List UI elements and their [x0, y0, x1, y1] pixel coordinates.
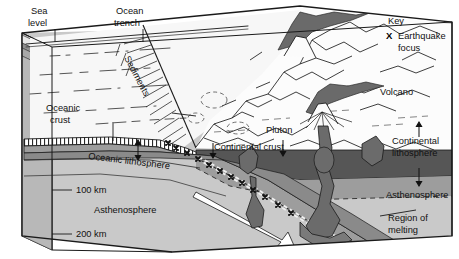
depth-tick-label-200km: 200 km [76, 229, 107, 239]
label-region-of-melting-line1: Region of [388, 213, 428, 223]
key-entry-label-line2: focus [398, 43, 421, 53]
label-asthenosphere-right: Asthenosphere [386, 190, 449, 200]
label-pluton: Pluton [266, 125, 292, 135]
label-asthenosphere-left: Asthenosphere [94, 205, 157, 215]
label-oceanic-crust-line2: crust [50, 115, 71, 125]
label-ocean-trench-line2: trench [114, 18, 140, 28]
label-sea-level-line2: level [28, 18, 47, 28]
key-heading: Key [388, 16, 404, 26]
key-entry-label-line1: Earthquake [398, 31, 446, 41]
label-continental-lithosphere-line1: Continental [392, 136, 439, 146]
subduction-zone-diagram: Sea level Ocean trench Sediments Oceanic… [0, 0, 459, 259]
label-sea-level-line1: Sea [31, 6, 48, 16]
label-oceanic-crust-line1: Oceanic [46, 103, 80, 113]
label-continental-crust: Continental crust [214, 142, 284, 152]
label-continental-lithosphere-line2: lithosphere [392, 148, 437, 158]
key-earthquake-focus-icon: X [386, 30, 393, 41]
magma-diapir [314, 147, 334, 173]
depth-tick-label-100km: 100 km [76, 185, 107, 195]
label-region-of-melting-line2: melting [388, 225, 418, 235]
label-ocean-trench-line1: Ocean [116, 6, 143, 16]
label-volcano: Volcano [380, 87, 413, 97]
diagram-canvas: Sea level Ocean trench Sediments Oceanic… [0, 0, 459, 259]
